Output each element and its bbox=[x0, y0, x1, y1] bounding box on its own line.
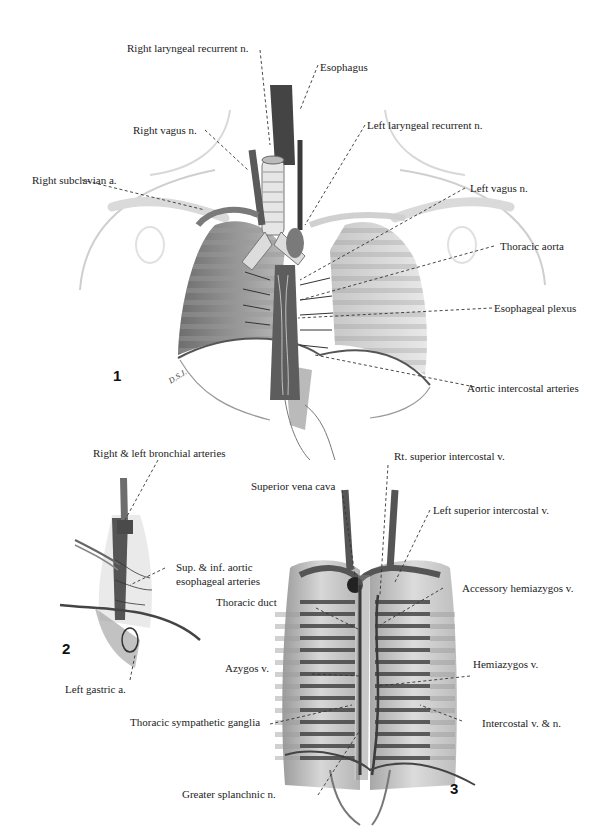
label-right-vagus-n: Right vagus n. bbox=[133, 124, 197, 136]
label-intercostal-v-n: Intercostal v. & n. bbox=[482, 717, 561, 729]
label-right-laryngeal-recurrent-n: Right laryngeal recurrent n. bbox=[127, 42, 249, 54]
label-sup-inf-aortic-esophageal-arteries-line2: esophageal arteries bbox=[176, 575, 260, 587]
label-right-subclavian-a: Right subclavian a. bbox=[32, 174, 117, 186]
figure-1-drawing bbox=[80, 85, 545, 460]
illustration bbox=[0, 0, 615, 835]
label-greater-splanchnic-n: Greater splanchnic n. bbox=[182, 788, 276, 800]
figure-2-drawing bbox=[60, 478, 200, 668]
figure-3-drawing bbox=[275, 490, 475, 825]
label-accessory-hemiazygos-v: Accessory hemiazygos v. bbox=[462, 582, 573, 594]
label-esophageal-plexus: Esophageal plexus bbox=[494, 302, 576, 314]
label-azygos-v: Azygos v. bbox=[225, 662, 269, 674]
label-left-vagus-n: Left vagus n. bbox=[470, 182, 528, 194]
label-sup-inf-aortic-esophageal-arteries-line1: Sup. & inf. aortic bbox=[176, 561, 253, 573]
label-rt-superior-intercostal-v: Rt. superior intercostal v. bbox=[394, 450, 505, 462]
label-right-left-bronchial-arteries: Right & left bronchial arteries bbox=[93, 447, 226, 459]
anatomy-plate: Right laryngeal recurrent n. Esophagus R… bbox=[0, 0, 615, 835]
label-left-superior-intercostal-v: Left superior intercostal v. bbox=[433, 504, 549, 516]
label-aortic-intercostal-arteries: Aortic intercostal arteries bbox=[467, 382, 579, 394]
label-left-gastric-a: Left gastric a. bbox=[65, 683, 126, 695]
label-hemiazygos-v: Hemiazygos v. bbox=[473, 658, 538, 670]
label-superior-vena-cava: Superior vena cava bbox=[251, 480, 335, 492]
figure-number-3: 3 bbox=[450, 780, 458, 797]
label-esophagus: Esophagus bbox=[320, 61, 368, 73]
label-thoracic-duct: Thoracic duct bbox=[216, 596, 277, 608]
label-thoracic-aorta: Thoracic aorta bbox=[500, 240, 564, 252]
label-thoracic-sympathetic-ganglia: Thoracic sympathetic ganglia bbox=[130, 716, 260, 728]
label-left-laryngeal-recurrent-n: Left laryngeal recurrent n. bbox=[367, 119, 482, 131]
figure-number-1: 1 bbox=[113, 367, 121, 384]
figure-number-2: 2 bbox=[62, 640, 70, 657]
